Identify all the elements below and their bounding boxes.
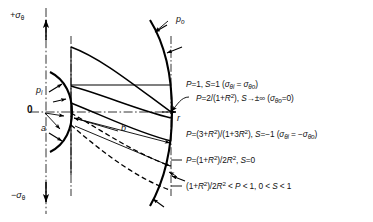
a-dimension-leader [45, 113, 64, 129]
origin-label: 0 [27, 105, 33, 115]
curve-label-1: P=1, S=1 (σθi = σθo) [186, 80, 258, 88]
outer-pressure-label-sub: o [181, 18, 185, 25]
outer-pressure-label: po [176, 15, 185, 24]
axis-label-r: r [177, 114, 180, 123]
outer-radius-label: b [121, 124, 126, 133]
stress-curve-5 [71, 125, 170, 190]
po-leader [155, 21, 168, 32]
axis-label-sigma-negative-text: −σ [11, 190, 22, 200]
inner-radius-label: a [41, 124, 46, 133]
axis-label-sigma-negative: −σθ [11, 191, 25, 200]
axis-label-sigma-positive-text: +σ [10, 10, 21, 20]
inner-pressure-arrows [49, 84, 66, 141]
curve-label-4: P=(1+R2)/2R2, S=0 [186, 156, 255, 164]
outer-pressure-arrows [153, 25, 185, 207]
curve-label-5: (1+R2)/2R2 < P < 1, 0 < S < 1 [186, 182, 291, 190]
axis-label-sigma-positive: +σθ [10, 11, 24, 20]
stress-curve-3a [71, 86, 171, 118]
curve-label-3: P=(3+R2)/(1+3R2), S=−1 (σθi = −σθo) [186, 130, 317, 138]
stress-distribution-figure: +σθ −σθ 0 r pi po a b P=1, S=1 (σθi = σθ… [0, 0, 373, 222]
axis-label-sigma-negative-sub: θ [22, 194, 26, 201]
inner-pressure-label: pi [36, 86, 42, 95]
inner-pressure-label-sub: i [41, 89, 42, 96]
curve-label-2: P=2/(1+R2), S→±∞ (σθo=0) [196, 94, 294, 102]
axis-label-sigma-positive-sub: θ [21, 14, 25, 21]
